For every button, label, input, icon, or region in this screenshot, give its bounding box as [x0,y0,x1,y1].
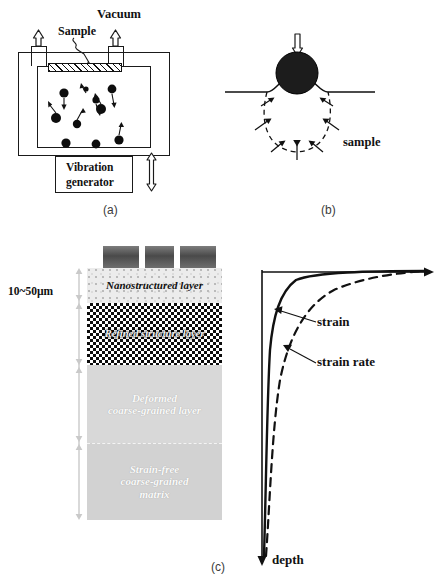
panel-b-surface-line [225,76,375,92]
plot-strain-label: strain [317,315,350,328]
layer-strain-free-matrix: Strain-free coarse-grained matrix [87,443,222,520]
panel-a: Vacuum Sample [0,0,215,215]
panel-a-sample-slab [48,63,122,72]
layer-deformed-label-line2: coarse-grained layer [108,404,201,416]
layer-deformed-coarse-grained: Deformed coarse-grained layer [87,365,222,443]
panel-a-inner-chamber [37,66,151,148]
panel-a-generator-label-line2: generator [66,177,114,189]
layer-nanostructured: Nanostructured layer [87,268,222,303]
panel-a-vacuum-label: Vacuum [97,8,141,21]
plot-depth-axis-arrowhead [258,556,267,566]
shot-block-1 [103,246,139,268]
panel-a-generator-label-line1: Vibration [66,162,114,174]
plot-strain-rate-leader-arrowhead [283,345,292,352]
panel-b-shot-ball [276,52,318,94]
layer-matrix-label-line3: matrix [140,488,170,500]
panel-a-sample-label: Sample [58,25,96,37]
figure-root: Vacuum Sample [0,0,443,587]
shot-block-3 [180,246,216,268]
thickness-label: 10~50µm [8,286,53,298]
panel-b-plastic-zone-boundary [264,92,330,152]
panel-b-strain-arrowheads [265,98,330,147]
plot-strain-rate-label: strain rate [317,355,375,368]
panel-b-sample-label: sample [343,136,381,149]
layer-matrix-label-line2: coarse-grained [121,475,189,487]
layer-matrix-label-line1: Strain-free [130,463,180,475]
plot-strain-leader-arrowhead [274,306,283,314]
plot-strain-leader [281,311,316,322]
layer-refined-structure-label: Refined structure layer [105,328,205,340]
layer-stack: Nanostructured layer Refined structure l… [87,268,222,520]
panel-b-impact-diagram [215,0,443,215]
panel-b-strain-arrows [255,99,339,160]
panel-b-caption: (b) [321,203,336,217]
panel-c: Nanostructured layer Refined structure l… [0,230,443,587]
panel-b-load-arrow [293,34,303,56]
plot-strain-rate-leader [290,349,316,363]
panel-a-caption: (a) [103,203,118,217]
plot-magnitude-axis-arrowhead [424,268,434,277]
panel-b: sample (b) [215,0,443,215]
layer-deformed-label-line1: Deformed [132,392,177,404]
plot-depth-axis-label: depth [272,553,304,566]
layer-refined-structure: Refined structure layer [87,303,222,365]
layer-separator-deformed-matrix [87,443,222,444]
shot-block-2 [145,246,174,268]
panel-c-caption: (c) [211,560,225,574]
layer-nanostructured-label: Nanostructured layer [106,279,203,291]
